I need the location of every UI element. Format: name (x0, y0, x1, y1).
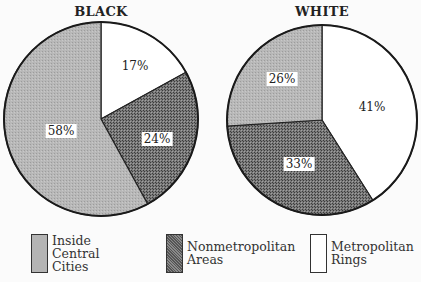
chart-title-white: WHITE (262, 4, 382, 19)
label-black-central: 58% (46, 124, 77, 138)
legend-label: Metropolitan Rings (331, 240, 414, 266)
legend-swatch-white (310, 234, 327, 273)
pie-white (227, 25, 417, 215)
legend-swatch-light-stipple (31, 234, 48, 273)
legend-item-nonmetropolitan: Nonmetropolitan Areas (166, 234, 295, 273)
pie-black (4, 22, 198, 216)
chart-title-black: BLACK (41, 4, 161, 19)
label-white-nonmetro: 33% (284, 157, 315, 171)
label-white-rings: 41% (357, 100, 388, 114)
legend-swatch-dark-hatch (166, 234, 183, 273)
legend-item-metropolitan-rings: Metropolitan Rings (310, 234, 414, 273)
label-black-nonmetro: 24% (142, 132, 173, 146)
legend-item-central-cities: Inside Central Cities (31, 234, 99, 273)
label-black-rings: 17% (120, 59, 151, 73)
legend-label: Inside Central Cities (52, 234, 99, 273)
legend-label: Nonmetropolitan Areas (187, 240, 295, 266)
label-white-central: 26% (267, 72, 298, 86)
